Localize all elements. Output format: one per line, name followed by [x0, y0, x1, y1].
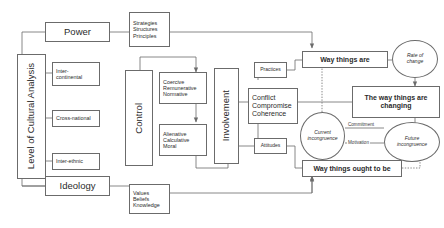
node-cross-national-label: Cross-national: [56, 115, 91, 121]
node-changing-line1: The way things are: [364, 94, 427, 102]
node-practices[interactable]: Practices: [254, 62, 287, 78]
node-way-things-are[interactable]: Way things are: [302, 51, 388, 68]
node-conflict-line2: Compromise: [252, 102, 292, 110]
node-current-incongruence[interactable]: Current incongruence: [300, 112, 345, 160]
node-level-of-cultural-analysis[interactable]: Level of Cultural Analysis: [17, 54, 46, 179]
node-involvement[interactable]: Involvement: [214, 68, 239, 164]
node-current-incongruence-line2: incongruence: [307, 136, 337, 142]
node-practices-label: Practices: [260, 67, 281, 73]
node-inter-ethnic-label: Inter-ethnic: [56, 158, 83, 164]
diagram-canvas: Power Strategies Structures Principles L…: [0, 0, 444, 228]
wire-values-wtob: [170, 176, 312, 193]
node-inter-ethnic[interactable]: Inter-ethnic: [52, 153, 100, 170]
node-rate-of-change[interactable]: Rate of change: [392, 40, 438, 78]
node-rate-of-change-line2: change: [407, 59, 423, 65]
node-coercive-line3: Normative: [163, 91, 197, 97]
node-coercive[interactable]: Coercive Remunerative Normative: [159, 72, 207, 104]
node-the-way-things-are-changing[interactable]: The way things are changing: [352, 86, 440, 118]
node-inter-continental[interactable]: Inter- continental: [52, 62, 100, 86]
node-control-label: Control: [134, 103, 145, 134]
edge-label-commitment: Commitment: [347, 122, 375, 127]
node-strategies-line3: Principles: [133, 33, 158, 39]
node-alienative-line3: Moral: [163, 143, 189, 149]
node-way-things-ought-to-be[interactable]: Way things ought to be: [302, 160, 402, 177]
node-conflict[interactable]: Conflict Compromise Coherence: [248, 88, 298, 124]
node-way-things-ought-to-be-label: Way things ought to be: [313, 165, 390, 173]
node-way-things-are-label: Way things are: [320, 56, 370, 64]
node-conflict-line3: Coherence: [252, 110, 292, 118]
node-strategies[interactable]: Strategies Structures Principles: [129, 12, 170, 47]
node-control[interactable]: Control: [125, 70, 153, 166]
node-involvement-label: Involvement: [221, 90, 232, 141]
node-values-line3: Knowledge: [133, 202, 160, 208]
node-attitudes-label: Attitudes: [261, 143, 280, 149]
wire-practices-wta: [287, 60, 302, 70]
node-strategies-line2: Structures: [133, 26, 158, 32]
node-ideology-label: Ideology: [60, 181, 96, 192]
node-power-label: Power: [64, 27, 91, 38]
node-values[interactable]: Values Beliefs Knowledge: [129, 184, 170, 214]
wire-strategies-wta: [170, 32, 312, 48]
node-level-of-cultural-analysis-label: Level of Cultural Analysis: [26, 63, 37, 169]
edge-label-motivation: Motivation: [347, 140, 370, 145]
node-ideology[interactable]: Ideology: [45, 176, 110, 196]
node-future-incongruence-line2: incongruence: [397, 142, 427, 148]
node-conflict-line1: Conflict: [252, 94, 292, 102]
node-power[interactable]: Power: [45, 22, 110, 42]
node-alienative[interactable]: Alienative Calculative Moral: [159, 124, 207, 156]
node-changing-line2: changing: [364, 102, 427, 110]
wire-attitudes-wtob: [287, 146, 302, 168]
node-cross-national[interactable]: Cross-national: [52, 110, 100, 127]
node-inter-continental-line2: continental: [56, 74, 82, 80]
node-future-incongruence[interactable]: Future incongruence: [384, 122, 440, 162]
node-attitudes[interactable]: Attitudes: [254, 138, 287, 154]
